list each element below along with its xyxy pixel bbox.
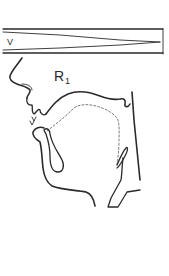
tongue-tip <box>44 129 63 172</box>
velum-wedge-lower <box>3 42 160 50</box>
vocal-tract-diagram: V R 1 <box>0 0 169 276</box>
velum-label: V <box>7 37 13 47</box>
velum-bar: V <box>3 29 163 54</box>
lower-teeth <box>30 121 34 125</box>
palate <box>46 92 130 114</box>
tongue-outline <box>47 105 119 164</box>
configuration-label: R 1 <box>54 68 70 86</box>
pharynx-wall <box>132 92 140 180</box>
larynx <box>108 158 140 207</box>
upper-lip <box>27 98 46 115</box>
configuration-label-subscript: 1 <box>65 76 70 86</box>
configuration-label-main: R <box>54 68 64 84</box>
upper-teeth <box>32 117 36 121</box>
velum-wedge-upper <box>3 32 160 42</box>
nose-profile <box>10 58 30 98</box>
